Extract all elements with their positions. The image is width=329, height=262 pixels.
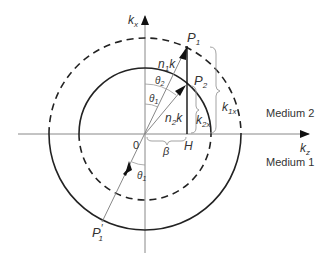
p1-label: P1 — [187, 30, 200, 47]
h-label: H — [184, 139, 193, 153]
p1-prime-label: P′1 — [92, 223, 104, 243]
beta-brace — [147, 137, 186, 145]
origin-label: 0 — [133, 139, 139, 151]
theta1-arc-lower — [132, 162, 145, 165]
n2k-arrowhead — [175, 85, 186, 96]
n1k-label: n1k — [158, 57, 176, 73]
medium-2-label: Medium 2 — [266, 107, 314, 119]
kx-axis-label: kx — [128, 13, 139, 29]
p2-label: P2 — [194, 73, 208, 90]
beta-label: β — [162, 145, 170, 157]
theta2-label: θ2 — [155, 75, 164, 87]
refraction-diagram: kx kz 0 P1 P2 P′1 H n1k n2k θ2 θ1 θ1 k1x… — [0, 0, 329, 262]
k1x-brace — [210, 47, 220, 133]
kz-axis-label: kz — [300, 141, 310, 157]
theta1-upper-label: θ1 — [149, 93, 158, 105]
n2k-label: n2k — [165, 111, 183, 127]
medium-1-label: Medium 1 — [266, 156, 314, 168]
n1k-arrowhead — [179, 47, 187, 60]
